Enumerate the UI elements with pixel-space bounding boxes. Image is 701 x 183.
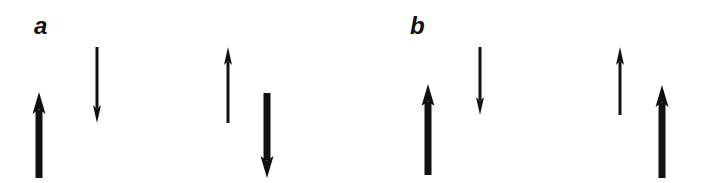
panel-a xyxy=(33,47,274,178)
down-arrow-icon xyxy=(93,47,101,123)
arrow-diagram xyxy=(0,0,701,183)
up-arrow-icon xyxy=(224,47,232,123)
down-arrow-icon xyxy=(476,47,484,115)
up-arrow-icon xyxy=(616,47,624,115)
up-arrow-icon xyxy=(422,84,435,175)
panel-b xyxy=(422,47,669,178)
up-arrow-icon xyxy=(656,85,669,178)
down-arrow-icon xyxy=(261,93,274,178)
up-arrow-icon xyxy=(33,92,46,178)
